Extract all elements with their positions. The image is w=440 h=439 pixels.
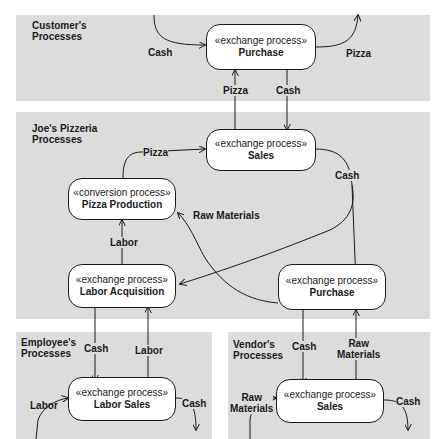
node-stereotype: «exchange process» — [215, 138, 307, 150]
flow-label-labor: Labor — [110, 237, 138, 248]
node-stereotype: «exchange process» — [215, 35, 307, 47]
flow-label-line: Materials — [230, 403, 273, 414]
node-labor-sales[interactable]: «exchange process» Labor Sales — [68, 377, 176, 421]
flow-label-labor: Labor — [30, 400, 58, 411]
flow-label-raw-materials: Raw Materials — [230, 392, 273, 414]
node-customer-purchase[interactable]: «exchange process» Purchase — [206, 24, 316, 70]
flow-label-cash: Cash — [148, 47, 172, 58]
node-labor-acquisition[interactable]: «exchange process» Labor Acquisition — [68, 264, 176, 308]
node-name: Sales — [248, 150, 274, 162]
flow-label-line: Materials — [337, 349, 380, 360]
node-name: Purchase — [238, 47, 283, 59]
node-joes-sales[interactable]: «exchange process» Sales — [206, 129, 316, 171]
node-name: Pizza Production — [82, 199, 163, 211]
flow-label-pizza: Pizza — [223, 85, 248, 96]
node-name: Labor Acquisition — [80, 286, 165, 298]
flow-label-raw-materials: Raw Materials — [337, 338, 380, 360]
node-stereotype: «exchange process» — [284, 389, 376, 401]
node-stereotype: «exchange process» — [76, 387, 168, 399]
flow-label-cash: Cash — [276, 85, 300, 96]
flow-label-pizza: Pizza — [346, 48, 371, 59]
flow-label-cash: Cash — [396, 396, 420, 407]
flow-label-pizza: Pizza — [143, 147, 168, 158]
node-vendor-sales[interactable]: «exchange process» Sales — [276, 379, 384, 423]
node-stereotype: «conversion process» — [73, 187, 170, 199]
flow-label-line: Raw — [337, 338, 380, 349]
node-name: Purchase — [309, 287, 354, 299]
flow-label-cash: Cash — [182, 398, 206, 409]
flow-label-labor: Labor — [135, 345, 163, 356]
flow-label-line: Raw — [230, 392, 273, 403]
node-name: Sales — [317, 401, 343, 413]
flow-label-raw-materials: Raw Materials — [193, 210, 260, 221]
flow-label-cash: Cash — [292, 341, 316, 352]
node-stereotype: «exchange process» — [286, 275, 378, 287]
node-joes-purchase[interactable]: «exchange process» Purchase — [278, 264, 386, 310]
flow-label-cash: Cash — [335, 170, 359, 181]
node-stereotype: «exchange process» — [76, 274, 168, 286]
node-pizza-production[interactable]: «conversion process» Pizza Production — [68, 178, 176, 220]
node-name: Labor Sales — [94, 399, 151, 411]
flow-label-cash: Cash — [84, 343, 108, 354]
